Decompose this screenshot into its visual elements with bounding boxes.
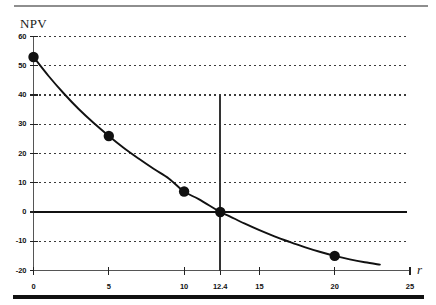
y-tick-label-40: 40 (2, 90, 27, 99)
data-point-marker (28, 52, 38, 62)
data-point-marker (330, 251, 340, 261)
bottom-rule-divider (13, 295, 424, 299)
data-point-marker (215, 207, 225, 217)
x-tick-label-10: 10 (164, 282, 204, 291)
data-point-marker (179, 186, 189, 196)
y-tick-label-10: 10 (2, 178, 27, 187)
npv-curve (34, 57, 380, 265)
x-tick-label-15: 15 (239, 282, 279, 291)
y-tick-label-60: 60 (2, 32, 27, 41)
y-tick-label-50: 50 (2, 61, 27, 70)
y-tick-label--10: -10 (2, 236, 27, 245)
y-tick-label-30: 30 (2, 119, 27, 128)
data-marker-group (28, 52, 340, 261)
x-axis-group (34, 267, 411, 275)
y-tick-label-0: 0 (2, 207, 27, 216)
y-tick-label-20: 20 (2, 149, 27, 158)
x-tick-label-25: 25 (390, 282, 430, 291)
x-tick-label-5: 5 (89, 282, 129, 291)
y-axis-group (30, 37, 38, 271)
data-point-marker (104, 131, 114, 141)
x-tick-label-0: 0 (14, 282, 54, 291)
x-tick-label-20: 20 (315, 282, 355, 291)
npv-vs-discount-rate-chart (0, 0, 436, 305)
x-tick-label-12.4: 12.4 (200, 282, 240, 291)
data-curve-group (34, 57, 380, 265)
y-tick-label--20: -20 (2, 266, 27, 275)
figure-container: NPV r 6050403020100-10-20 051012.4152025 (0, 0, 436, 305)
